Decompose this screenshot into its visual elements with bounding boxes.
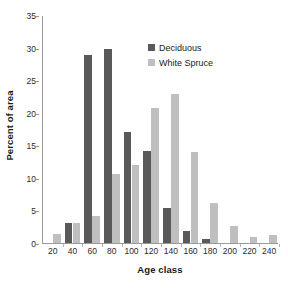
bar <box>230 226 238 243</box>
bar <box>151 108 159 243</box>
bar <box>183 231 191 243</box>
bar-group <box>84 16 100 243</box>
x-tick-mark <box>122 244 123 247</box>
legend-item: White Spruce <box>148 55 213 70</box>
x-tick-mark <box>161 244 162 247</box>
y-tick-mark <box>36 179 39 180</box>
x-tick-label: 240 <box>262 246 276 256</box>
x-tick-label: 180 <box>203 246 217 256</box>
legend-item: Deciduous <box>148 40 213 55</box>
bar <box>210 203 218 243</box>
x-tick-label: 120 <box>144 246 158 256</box>
bar <box>163 208 171 243</box>
bar-group <box>104 16 120 243</box>
x-tick-mark <box>181 244 182 247</box>
y-tick-mark <box>36 146 39 147</box>
bar <box>112 174 120 243</box>
y-tick-label: 30 <box>27 44 36 54</box>
x-tick-mark <box>200 244 201 247</box>
bar <box>191 152 199 243</box>
chart-legend: DeciduousWhite Spruce <box>148 40 213 70</box>
bar <box>53 234 61 243</box>
x-tick-label: 200 <box>223 246 237 256</box>
bar <box>124 132 132 243</box>
y-tick-mark <box>36 244 39 245</box>
x-tick-mark <box>141 244 142 247</box>
x-tick-label: 160 <box>183 246 197 256</box>
x-tick-mark <box>240 244 241 247</box>
legend-label: White Spruce <box>159 58 213 68</box>
y-axis-title: Percent of area <box>0 0 18 250</box>
x-tick-mark <box>102 244 103 247</box>
x-tick-mark <box>259 244 260 247</box>
x-tick-label: 40 <box>68 246 77 256</box>
y-tick-label: 35 <box>27 11 36 21</box>
bar <box>143 151 151 243</box>
y-tick-mark <box>36 114 39 115</box>
x-tick-label: 140 <box>164 246 178 256</box>
x-tick-label: 220 <box>242 246 256 256</box>
bar-group <box>261 16 277 243</box>
x-tick-mark <box>82 244 83 247</box>
bar <box>92 216 100 243</box>
bar-group <box>222 16 238 243</box>
bar <box>73 223 81 243</box>
y-tick-mark <box>36 49 39 50</box>
bar <box>65 223 73 243</box>
y-tick-mark <box>36 16 39 17</box>
y-tick-label: 10 <box>27 174 36 184</box>
y-tick-label: 20 <box>27 109 36 119</box>
x-tick-label: 60 <box>87 246 96 256</box>
bar <box>84 55 92 243</box>
bar <box>104 49 112 243</box>
x-tick-mark <box>279 244 280 247</box>
x-tick-mark <box>63 244 64 247</box>
x-axis-ticks: 20406080100120140160180200220240 <box>43 246 279 260</box>
x-tick-mark <box>220 244 221 247</box>
bar-group <box>242 16 258 243</box>
x-axis-line <box>42 243 278 244</box>
bar <box>132 165 140 243</box>
bar <box>250 237 258 243</box>
bar-chart: Percent of area 05101520253035 204060801… <box>0 0 288 301</box>
y-tick-label: 15 <box>27 141 36 151</box>
bar-group <box>45 16 61 243</box>
y-axis-title-label: Percent of area <box>4 90 15 160</box>
x-tick-label: 80 <box>107 246 116 256</box>
x-tick-label: 20 <box>48 246 57 256</box>
x-axis-title: Age class <box>42 264 278 275</box>
bar <box>171 94 179 243</box>
bar <box>269 235 277 243</box>
legend-label: Deciduous <box>159 43 202 53</box>
y-axis-ticks: 05101520253035 <box>18 16 39 244</box>
bar-group <box>65 16 81 243</box>
y-tick-label: 25 <box>27 76 36 86</box>
y-tick-mark <box>36 211 39 212</box>
x-tick-label: 100 <box>124 246 138 256</box>
legend-swatch <box>148 59 155 66</box>
bar <box>202 239 210 243</box>
legend-swatch <box>148 44 155 51</box>
bar-group <box>124 16 140 243</box>
y-tick-mark <box>36 81 39 82</box>
